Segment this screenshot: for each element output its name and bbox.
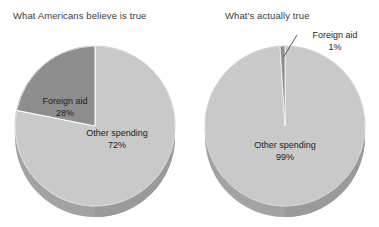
pie-2-label-other-spending: Other spending 99% <box>236 140 334 163</box>
chart-title-believed: What Americans believe is true <box>0 10 189 21</box>
chart-title-actual: What's actually true <box>190 10 379 21</box>
pie-2-label-foreign-aid-name: Foreign aid <box>312 30 357 40</box>
pie-2-label-other-spending-name: Other spending <box>254 140 316 150</box>
pie-1-label-other-spending: Other spending 72% <box>68 128 166 151</box>
pie-2-label-foreign-aid: Foreign aid 1% <box>299 30 371 53</box>
figure-canvas: What Americans believe is true Foreign a… <box>0 0 379 227</box>
pie-2-label-other-spending-pct: 99% <box>236 152 334 164</box>
pie-1-label-foreign-aid-name: Foreign aid <box>42 96 87 106</box>
pie-1-label-other-spending-name: Other spending <box>86 128 148 138</box>
pie-1-label-foreign-aid-pct: 28% <box>28 108 102 120</box>
pie-2-label-foreign-aid-pct: 1% <box>299 42 371 54</box>
pie-1-label-foreign-aid: Foreign aid 28% <box>28 96 102 119</box>
pie-1-label-other-spending-pct: 72% <box>68 140 166 152</box>
